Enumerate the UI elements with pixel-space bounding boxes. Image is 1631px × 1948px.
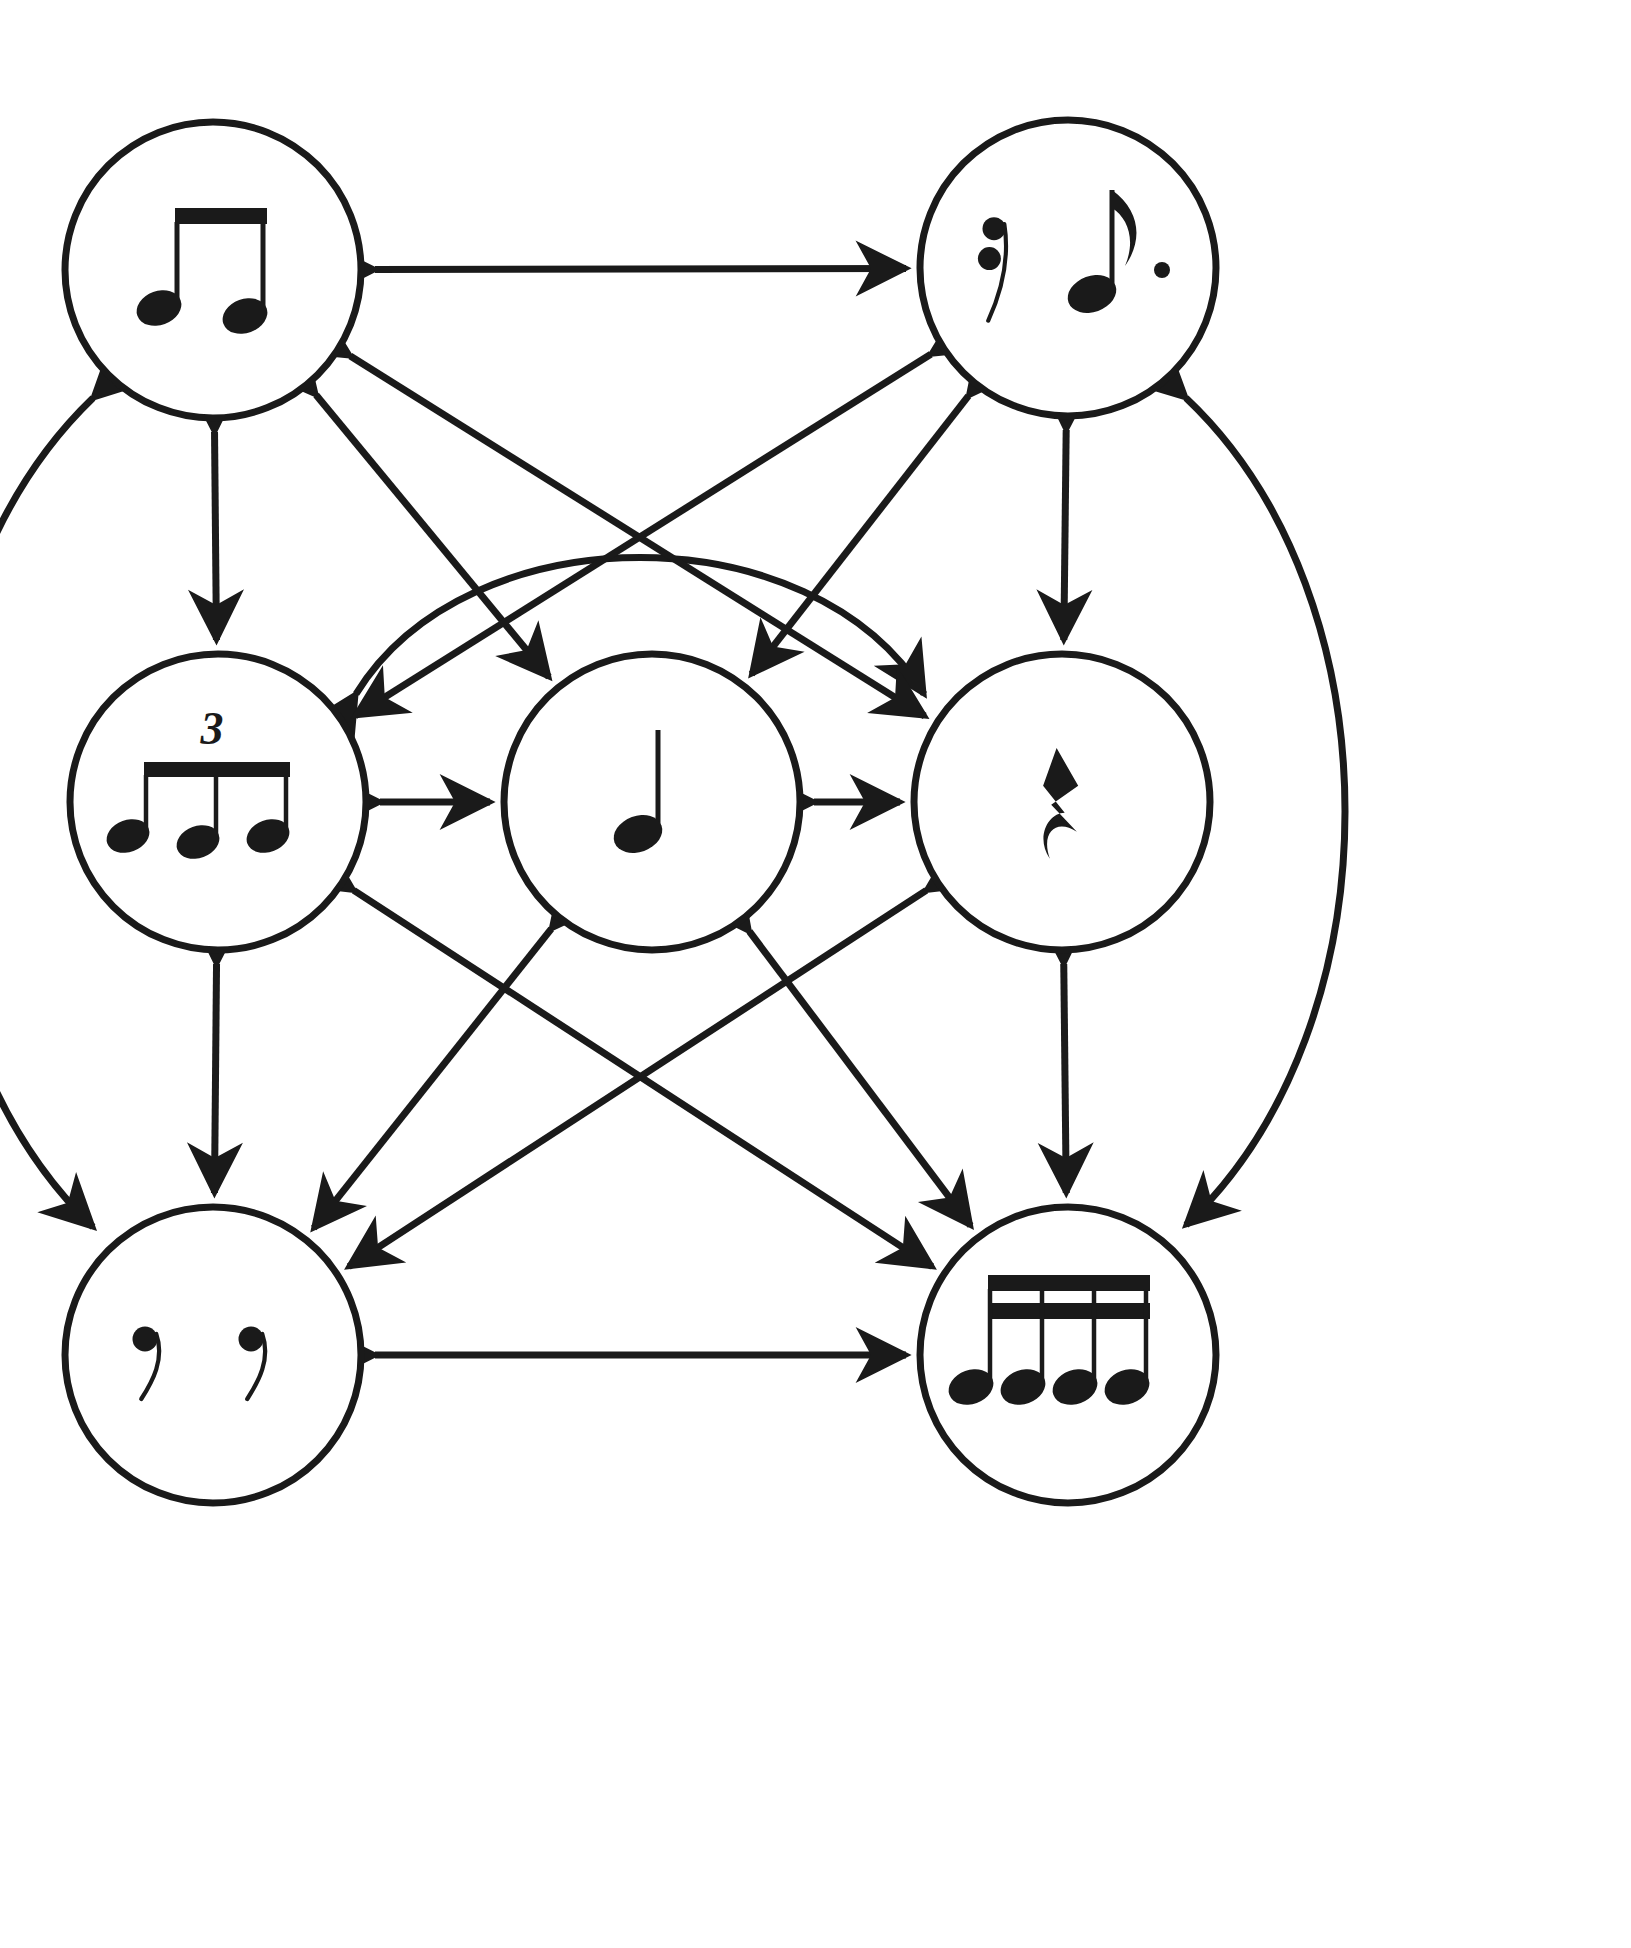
node-sixteenth-rest-dotted-eighth[interactable] — [920, 120, 1216, 416]
edge-midright-bottomright — [1064, 964, 1066, 1193]
edge-topright-midright — [1064, 430, 1066, 640]
node-two-eighth-notes[interactable] — [65, 122, 361, 418]
diagram-svg: 3 — [0, 0, 1631, 1948]
edge-topright-midcenter — [752, 396, 969, 674]
edge-midleft-bottomleft — [214, 964, 216, 1193]
node-quarter-rest[interactable] — [914, 654, 1210, 950]
triplet-number: 3 — [200, 703, 224, 754]
node-two-eighth-rests[interactable] — [65, 1207, 361, 1503]
edge-topleft-topright — [375, 268, 906, 269]
edge-topleft-midcenter — [316, 395, 549, 677]
node-four-sixteenth-notes[interactable] — [920, 1207, 1216, 1503]
diagram-canvas: 3 — [0, 0, 1631, 1948]
edge-topleft-midleft — [215, 432, 217, 640]
edge-midcenter-bottomright — [749, 931, 970, 1225]
edge-midcenter-bottomleft — [314, 929, 552, 1228]
node-quarter-note[interactable] — [504, 654, 800, 950]
